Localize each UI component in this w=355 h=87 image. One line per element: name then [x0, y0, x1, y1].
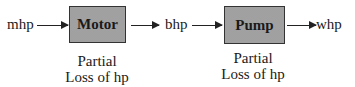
intermediate-label-bhp: bhp — [165, 17, 188, 32]
motor-label: Motor — [77, 16, 118, 33]
arrow-motor-to-bhp — [131, 25, 159, 26]
pump-block: Pump — [224, 6, 285, 44]
output-label-whp: whp — [316, 17, 342, 32]
arrow-pump-to-whp — [287, 25, 316, 26]
pump-caption-line2: Loss of hp — [213, 66, 293, 82]
arrow-bhp-to-pump — [192, 25, 222, 26]
pump-label: Pump — [235, 17, 273, 34]
pump-caption: Partial Loss of hp — [213, 50, 293, 82]
motor-caption-line2: Loss of hp — [57, 69, 137, 85]
pump-caption-line1: Partial — [213, 50, 293, 66]
motor-block: Motor — [69, 6, 126, 43]
motor-caption: Partial Loss of hp — [57, 53, 137, 85]
input-label-mhp: mhp — [7, 17, 34, 32]
arrow-mhp-to-motor — [37, 25, 68, 26]
motor-caption-line1: Partial — [57, 53, 137, 69]
